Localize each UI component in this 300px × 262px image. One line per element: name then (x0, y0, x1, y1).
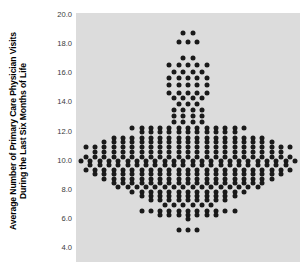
data-point (269, 154, 274, 159)
data-point (167, 144, 172, 149)
data-point (223, 154, 228, 159)
data-point (269, 144, 274, 149)
data-point (195, 90, 200, 95)
data-point (190, 55, 195, 60)
y-tick-label: 16.0 (57, 68, 72, 77)
data-point (158, 129, 163, 134)
data-point (134, 163, 139, 168)
data-point (172, 96, 177, 101)
data-point (181, 202, 186, 207)
data-point (195, 102, 200, 107)
data-point (162, 202, 167, 207)
data-point (199, 163, 204, 168)
y-tick-label: 12.0 (57, 126, 72, 135)
data-point (260, 144, 265, 149)
data-point (158, 144, 163, 149)
data-point (283, 163, 288, 168)
data-point (172, 113, 177, 118)
data-point (251, 144, 256, 149)
data-point (167, 129, 172, 134)
data-point (130, 144, 135, 149)
data-point (79, 159, 84, 164)
data-point (176, 198, 181, 203)
data-point (186, 83, 191, 88)
data-point (186, 39, 191, 44)
data-point (111, 154, 116, 159)
data-point (292, 159, 297, 164)
data-point (213, 154, 218, 159)
data-point (172, 202, 177, 207)
data-point (190, 163, 195, 168)
data-point (288, 167, 293, 172)
data-point (172, 108, 177, 113)
data-point (106, 163, 111, 168)
data-point (134, 185, 139, 190)
data-point (130, 125, 135, 130)
y-tick-label: 14.0 (57, 97, 72, 106)
data-point (232, 208, 237, 213)
data-point (195, 39, 200, 44)
data-point (102, 176, 107, 181)
data-point (190, 70, 195, 75)
data-point (172, 119, 177, 124)
data-point (288, 144, 293, 149)
plot-panel (76, 13, 300, 262)
data-point (255, 185, 260, 190)
data-point (213, 144, 218, 149)
data-point (167, 62, 172, 67)
data-point (181, 163, 186, 168)
data-point (153, 163, 158, 168)
data-point (186, 102, 191, 107)
data-point (190, 202, 195, 207)
data-point (158, 198, 163, 203)
data-point (190, 119, 195, 124)
data-point (176, 62, 181, 67)
data-point (204, 198, 209, 203)
data-point (204, 90, 209, 95)
data-point (186, 76, 191, 81)
data-point (223, 208, 228, 213)
data-point (213, 198, 218, 203)
data-point (181, 185, 186, 190)
data-point (199, 113, 204, 118)
data-point (246, 163, 251, 168)
data-point (237, 163, 242, 168)
data-point (176, 154, 181, 159)
data-point (204, 144, 209, 149)
data-point (204, 76, 209, 81)
data-point (195, 76, 200, 81)
data-point (148, 129, 153, 134)
data-point (241, 144, 246, 149)
y-tick-label: 6.0 (61, 213, 72, 222)
data-point (176, 129, 181, 134)
data-point (181, 70, 186, 75)
data-point (190, 30, 195, 35)
data-point (148, 208, 153, 213)
data-point (227, 185, 232, 190)
data-point (195, 212, 200, 217)
y-axis-title: Average Number of Primary Care Physician… (0, 0, 44, 262)
data-point (83, 144, 88, 149)
data-point (204, 212, 209, 217)
data-point (130, 189, 135, 194)
data-point (199, 202, 204, 207)
data-point (181, 96, 186, 101)
data-point (237, 185, 242, 190)
data-point (195, 62, 200, 67)
data-point (158, 154, 163, 159)
data-point (97, 163, 102, 168)
data-point (199, 108, 204, 113)
data-point (116, 185, 121, 190)
data-point (223, 144, 228, 149)
data-point (195, 129, 200, 134)
data-point (213, 212, 218, 217)
data-point (260, 154, 265, 159)
data-point (167, 83, 172, 88)
data-point (176, 227, 181, 232)
data-point (232, 194, 237, 199)
data-point (176, 90, 181, 95)
data-point (139, 144, 144, 149)
data-point (213, 129, 218, 134)
data-point (279, 172, 284, 177)
data-point (195, 227, 200, 232)
